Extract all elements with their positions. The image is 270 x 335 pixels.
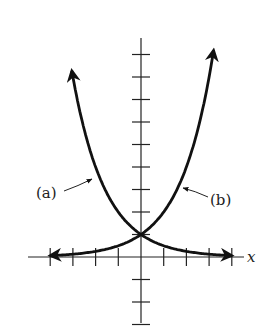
exponential-graph: (a) (b) x (0, 0, 270, 335)
x-axis-label: x (247, 248, 256, 266)
label-b-pointer (183, 188, 208, 197)
label-a: (a) (36, 184, 57, 202)
curve-b-tail (50, 235, 141, 256)
axes (28, 38, 244, 323)
curve-b (141, 50, 214, 234)
curve-a-tail (141, 235, 232, 256)
label-a-pointer (64, 179, 92, 191)
curve-a (72, 71, 141, 235)
label-b: (b) (210, 191, 231, 209)
